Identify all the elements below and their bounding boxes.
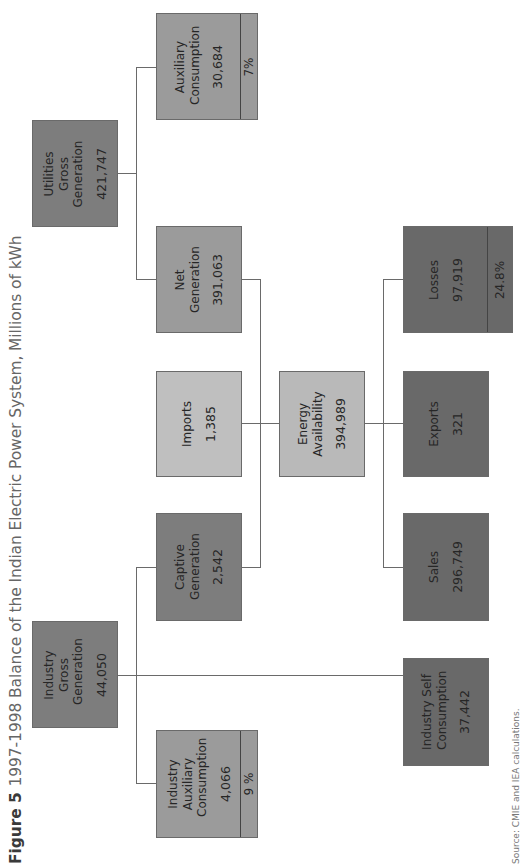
figure-caption: 1997-1998 Balance of the Indian Electric…	[7, 236, 25, 787]
connector	[383, 279, 403, 280]
node-value: 30,684	[210, 29, 225, 105]
connector	[136, 783, 156, 784]
connector	[241, 279, 261, 280]
node-percentage: 7%	[242, 57, 256, 76]
figure-label: Figure 5	[7, 792, 25, 864]
connector	[136, 279, 156, 280]
node-label: Net Generation	[173, 247, 202, 313]
node-value: 97,919	[450, 258, 465, 302]
node-industry-gross-generation: Industry Gross Generation 44,050	[32, 621, 118, 728]
node-label: Exports	[427, 401, 442, 447]
node-label: Industry Self Consumption	[420, 674, 449, 750]
node-percentage: 9 %	[242, 773, 256, 796]
node-industry-auxiliary-consumption: Industry Auxiliary Consumption 4,066 9 %	[156, 730, 258, 838]
connector	[136, 567, 137, 784]
node-value: 391,063	[211, 247, 226, 313]
node-auxiliary-consumption: Auxiliary Consumption 30,684 7%	[156, 13, 258, 120]
node-label: Energy Availability	[296, 391, 325, 457]
node-label: Captive Generation	[173, 534, 202, 600]
connector	[118, 173, 137, 174]
node-label: Industry Gross Generation	[42, 645, 86, 705]
node-value: 1,385	[204, 401, 219, 447]
node-label: Imports	[180, 401, 195, 447]
connector	[365, 423, 403, 424]
node-utilities-gross-generation: Utilities Gross Generation 421,747	[32, 120, 118, 227]
connector	[118, 675, 403, 676]
node-value: 4,066	[218, 751, 233, 817]
connector	[383, 567, 403, 568]
node-sales: Sales 296,749	[403, 513, 489, 621]
node-value: 394,989	[334, 391, 349, 457]
node-value: 321	[451, 401, 466, 447]
node-value: 421,747	[94, 139, 109, 209]
node-label: Sales	[427, 541, 442, 593]
node-imports: Imports 1,385	[156, 371, 242, 477]
node-value: 44,050	[94, 645, 109, 705]
connector	[136, 67, 156, 68]
connector	[136, 567, 156, 568]
connector	[136, 67, 137, 280]
node-label: Auxiliary Consumption	[172, 29, 201, 105]
node-value: 296,749	[451, 541, 466, 593]
node-label: Industry Auxiliary Consumption	[165, 751, 209, 817]
node-net-generation: Net Generation 391,063	[156, 226, 242, 333]
connector	[241, 423, 279, 424]
node-industry-self-consumption: Industry Self Consumption 37,442	[403, 658, 489, 766]
node-exports: Exports 321	[403, 371, 489, 477]
node-label: Losses	[427, 258, 442, 302]
node-losses: Losses 97,919 24.8%	[403, 226, 513, 333]
figure-title: Figure 51997-1998 Balance of the Indian …	[4, 4, 28, 864]
node-percentage: 24.8%	[493, 260, 507, 298]
node-label: Utilities Gross Generation	[42, 139, 86, 209]
node-value: 2,542	[211, 534, 226, 600]
node-energy-availability: Energy Availability 394,989	[279, 371, 365, 477]
node-value: 37,442	[458, 674, 473, 750]
connector	[241, 567, 261, 568]
source-note: Source: CMIE and IEA calculations.	[508, 664, 524, 864]
connector	[383, 279, 384, 568]
node-captive-generation: Captive Generation 2,542	[156, 513, 242, 621]
